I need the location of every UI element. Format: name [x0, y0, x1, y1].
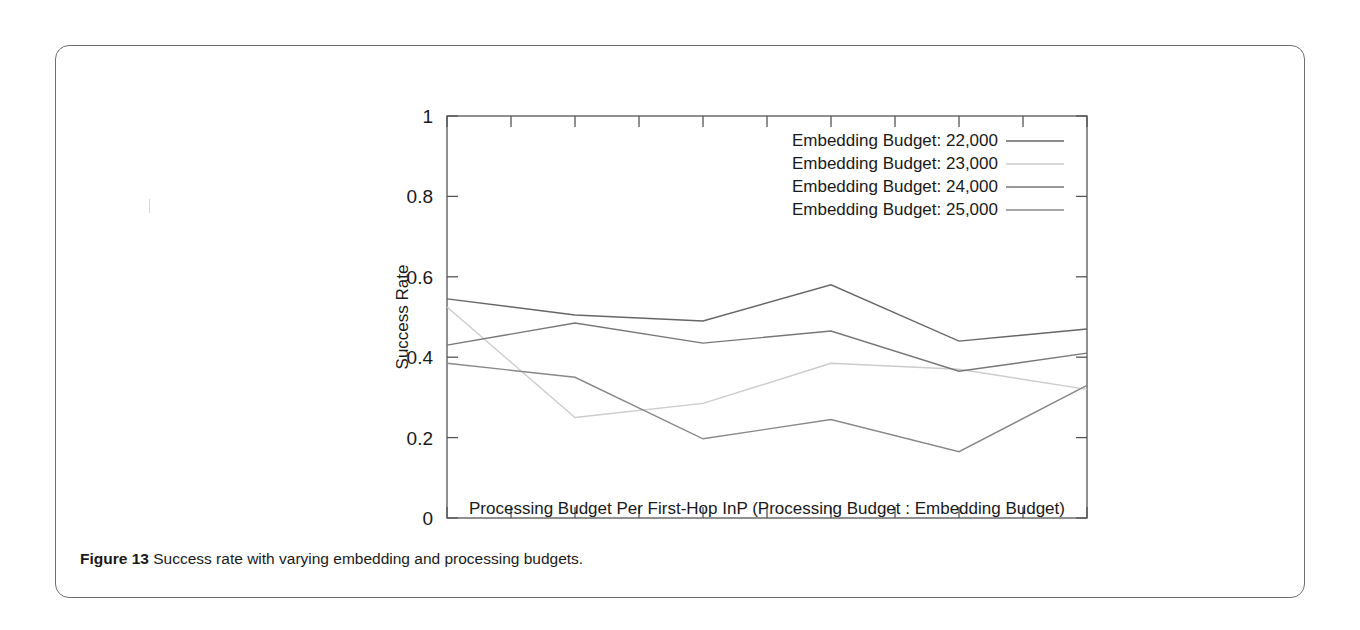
- figure-caption: Figure 13 Success rate with varying embe…: [80, 549, 1260, 569]
- series-line-3: [447, 363, 1087, 451]
- y-axis-title: Success Rate: [393, 265, 412, 370]
- legend-label-3: Embedding Budget: 25,000: [792, 200, 998, 219]
- y-tick-label: 0: [422, 508, 433, 526]
- line-chart: 00.20.40.60.81 0.20.2050.210.2150.220.22…: [392, 71, 1092, 526]
- chart-plot-area: 00.20.40.60.81 0.20.2050.210.2150.220.22…: [392, 71, 1092, 526]
- x-axis-title: Processing Budget Per First-Hop InP (Pro…: [469, 499, 1065, 518]
- y-tick-label: 1: [422, 106, 433, 127]
- data-series-group: [447, 285, 1087, 452]
- y-tick-label: 0.2: [407, 428, 433, 449]
- caption-figure-number: Figure 13: [80, 550, 149, 567]
- scan-artifact: [149, 199, 150, 213]
- caption-text: Success rate with varying embedding and …: [153, 550, 583, 567]
- y-tick-label: 0.8: [407, 186, 433, 207]
- series-line-2: [447, 323, 1087, 371]
- legend-label-2: Embedding Budget: 24,000: [792, 177, 998, 196]
- series-line-1: [447, 307, 1087, 418]
- figure-card: 00.20.40.60.81 0.20.2050.210.2150.220.22…: [55, 45, 1305, 598]
- legend-label-0: Embedding Budget: 22,000: [792, 131, 998, 150]
- series-line-0: [447, 285, 1087, 341]
- legend-label-1: Embedding Budget: 23,000: [792, 154, 998, 173]
- chart-legend: Embedding Budget: 22,000Embedding Budget…: [792, 131, 1064, 219]
